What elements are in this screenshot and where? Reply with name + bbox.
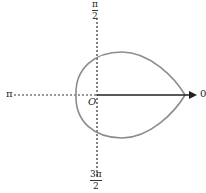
polar-diagram — [0, 0, 206, 193]
denominator: 2 — [92, 12, 98, 21]
label-zero: 0 — [200, 89, 206, 99]
arrow-head-icon — [189, 91, 197, 99]
label-pi-over-2: π 2 — [92, 0, 98, 21]
denominator: 2 — [93, 182, 99, 191]
numerator: 3π — [90, 170, 102, 179]
label-origin: O — [88, 97, 96, 107]
numerator: π — [92, 0, 98, 9]
label-pi: π — [6, 89, 13, 99]
label-3pi-over-2: 3π 2 — [90, 170, 102, 191]
